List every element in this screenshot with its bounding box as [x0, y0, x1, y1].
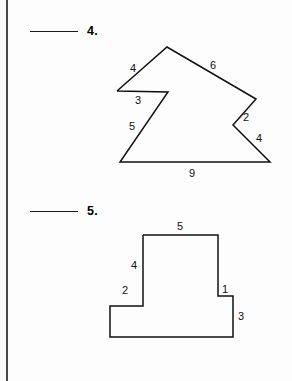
problem-item-5: 5. 54213 — [0, 190, 292, 381]
side-length-label: 5 — [177, 220, 183, 232]
side-length-label: 3 — [238, 310, 244, 322]
side-length-label: 6 — [210, 59, 216, 71]
worksheet-page: 4. 4632549 5. 54213 — [0, 0, 292, 381]
tee-shape-polygon — [110, 235, 233, 337]
side-length-label: 9 — [189, 167, 195, 179]
side-length-label: 3 — [135, 94, 141, 106]
figure-4: 4632549 — [0, 0, 292, 190]
side-length-label: 2 — [122, 284, 128, 296]
side-length-label: 4 — [131, 259, 137, 271]
side-length-label: 1 — [222, 283, 228, 295]
side-length-label: 4 — [130, 62, 136, 74]
figure-5: 54213 — [0, 190, 292, 381]
problem-item-4: 4. 4632549 — [0, 0, 292, 190]
side-length-label: 2 — [243, 111, 249, 123]
side-length-label: 5 — [129, 120, 135, 132]
side-length-label: 4 — [256, 132, 262, 144]
